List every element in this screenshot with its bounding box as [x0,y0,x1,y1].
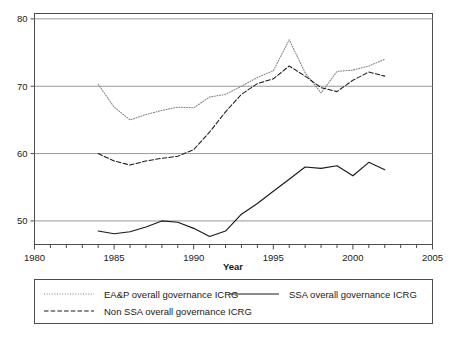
x-tick-label: 1995 [263,252,284,263]
x-axis-title: Year [223,261,243,272]
y-tick-marks [31,19,35,221]
x-tick-label: 2000 [342,252,363,263]
legend-label: SSA overall governance ICRG [289,289,417,300]
legend-box [35,280,433,324]
x-tick-marks [35,245,433,250]
legend-label: EA&P overall governance ICRG [104,289,238,300]
y-tick-label: 80 [17,13,28,24]
x-tick-label: 2005 [422,252,443,263]
x-tick-label: 1990 [183,252,204,263]
y-tick-label: 50 [17,215,28,226]
chart-figure: 50607080 198019851990199520002005 Year E… [0,0,452,339]
line-chart: 50607080 198019851990199520002005 Year E… [0,0,452,339]
y-tick-labels: 50607080 [17,13,28,226]
x-tick-label: 1985 [104,252,125,263]
y-tick-label: 60 [17,148,28,159]
y-tick-label: 70 [17,81,28,92]
plot-frame [35,14,433,245]
x-tick-label: 1980 [24,252,45,263]
legend-label: Non SSA overall governance ICRG [104,306,252,317]
